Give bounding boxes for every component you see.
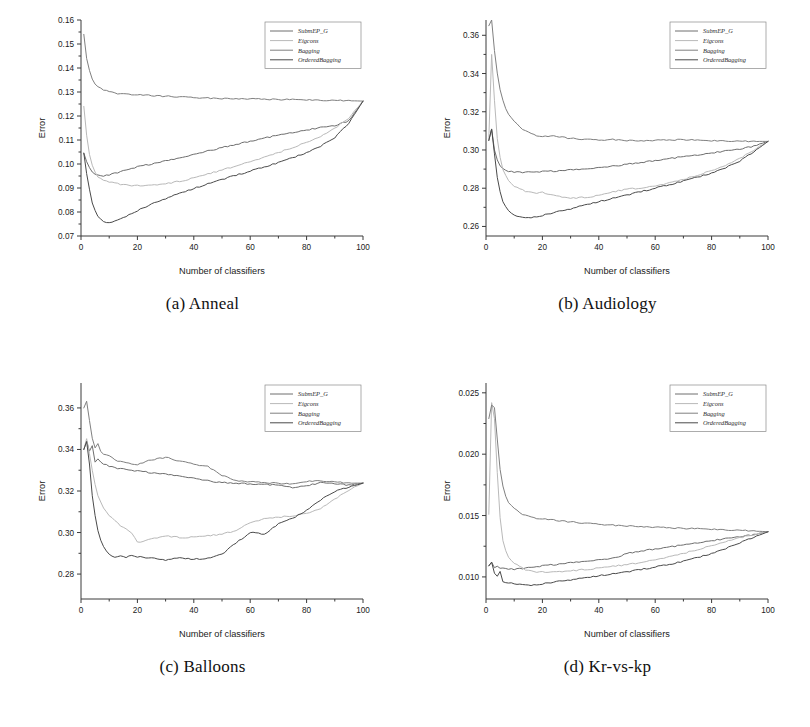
y-axis-title: Error (37, 481, 47, 501)
y-tick-label: 0.30 (58, 529, 74, 538)
plot-a: 0.070.080.090.100.110.120.130.140.150.16… (33, 10, 373, 282)
y-tick-label: 0.09 (58, 184, 74, 193)
series-line-submep_g (488, 129, 767, 173)
plot-b: 0.260.280.300.320.340.36020406080100Numb… (438, 10, 778, 282)
x-tick-label: 20 (132, 606, 142, 615)
x-tick-label: 0 (78, 606, 83, 615)
y-tick-label: 0.025 (458, 389, 479, 398)
y-tick-label: 0.28 (58, 570, 74, 579)
y-axis-title: Error (37, 118, 47, 138)
y-tick-label: 0.34 (463, 70, 479, 79)
y-tick-label: 0.08 (58, 208, 74, 217)
y-tick-label: 0.07 (58, 232, 74, 241)
x-tick-label: 60 (650, 243, 660, 252)
panel-c: 0.280.300.320.340.36020406080100Number o… (0, 363, 405, 727)
figure-grid: 0.070.080.090.100.110.120.130.140.150.16… (0, 0, 810, 727)
series-line-orderedbagging (83, 101, 362, 223)
legend-label-bagging: Bagging (703, 410, 725, 417)
plot-b-svg: 0.260.280.300.320.340.36020406080100Numb… (438, 10, 778, 282)
plot-d-svg: 0.0100.0150.0200.025020406080100Number o… (438, 373, 778, 645)
legend-label-eigcons: Eigcons (297, 400, 319, 407)
y-tick-label: 0.14 (58, 64, 74, 73)
x-tick-label: 80 (707, 243, 717, 252)
panel-caption-c: (c) Balloons (160, 657, 246, 677)
x-axis-title: Number of classifiers (179, 629, 265, 639)
y-tick-label: 0.10 (58, 160, 74, 169)
x-tick-label: 20 (537, 606, 547, 615)
y-tick-label: 0.32 (463, 108, 479, 117)
x-tick-label: 40 (189, 606, 199, 615)
x-tick-label: 60 (650, 606, 660, 615)
y-tick-label: 0.020 (458, 450, 479, 459)
x-tick-label: 40 (189, 243, 199, 252)
y-tick-label: 0.28 (463, 184, 479, 193)
x-tick-label: 40 (594, 243, 604, 252)
y-tick-label: 0.26 (463, 222, 479, 231)
panel-d: 0.0100.0150.0200.025020406080100Number o… (405, 363, 810, 727)
x-tick-label: 80 (302, 606, 312, 615)
y-tick-label: 0.32 (58, 487, 74, 496)
panel-a: 0.070.080.090.100.110.120.130.140.150.16… (0, 0, 405, 363)
x-tick-label: 80 (707, 606, 717, 615)
series-line-eigcons (488, 54, 767, 198)
plot-c-svg: 0.280.300.320.340.36020406080100Number o… (33, 373, 373, 645)
x-tick-label: 20 (132, 243, 142, 252)
legend-label-orderedbagging: OrderedBagging (703, 56, 747, 63)
x-axis-title: Number of classifiers (584, 629, 670, 639)
y-tick-label: 0.34 (58, 445, 74, 454)
series-line-orderedbagging (488, 129, 767, 218)
legend-label-orderedbagging: OrderedBagging (298, 419, 342, 426)
x-tick-label: 100 (761, 243, 775, 252)
series-line-orderedbagging (488, 532, 767, 586)
legend-label-submep_g: SubmEP_G (298, 27, 328, 34)
y-tick-label: 0.12 (58, 112, 74, 121)
x-tick-label: 20 (537, 243, 547, 252)
legend-label-eigcons: Eigcons (702, 400, 724, 407)
panel-caption-a: (a) Anneal (166, 294, 239, 314)
y-tick-label: 0.16 (58, 16, 74, 25)
x-tick-label: 100 (761, 606, 775, 615)
x-tick-label: 60 (245, 243, 255, 252)
series-line-orderedbagging (83, 442, 362, 561)
y-tick-label: 0.36 (58, 404, 74, 413)
y-axis-title: Error (442, 481, 452, 501)
x-tick-label: 0 (78, 243, 83, 252)
x-tick-label: 100 (356, 243, 370, 252)
series-line-eigcons (83, 101, 362, 186)
y-tick-label: 0.015 (458, 512, 479, 521)
x-tick-label: 40 (594, 606, 604, 615)
legend-label-orderedbagging: OrderedBagging (703, 419, 747, 426)
y-tick-label: 0.15 (58, 40, 74, 49)
plot-d: 0.0100.0150.0200.025020406080100Number o… (438, 373, 778, 645)
y-tick-label: 0.13 (58, 88, 74, 97)
y-tick-label: 0.010 (458, 573, 479, 582)
legend-label-bagging: Bagging (703, 47, 725, 54)
series-line-eigcons (83, 439, 362, 543)
legend-label-submep_g: SubmEP_G (298, 390, 328, 397)
series-line-submep_g (83, 101, 362, 176)
plot-a-svg: 0.070.080.090.100.110.120.130.140.150.16… (33, 10, 373, 282)
plot-c: 0.280.300.320.340.36020406080100Number o… (33, 373, 373, 645)
legend-label-bagging: Bagging (298, 410, 320, 417)
x-tick-label: 100 (356, 606, 370, 615)
legend-label-eigcons: Eigcons (702, 37, 724, 44)
panel-caption-b: (b) Audiology (558, 294, 656, 314)
x-tick-label: 0 (483, 606, 488, 615)
x-tick-label: 80 (302, 243, 312, 252)
legend-label-bagging: Bagging (298, 47, 320, 54)
x-tick-label: 60 (245, 606, 255, 615)
y-tick-label: 0.11 (58, 136, 74, 145)
y-tick-label: 0.30 (463, 146, 479, 155)
panel-caption-d: (d) Kr-vs-kp (564, 657, 652, 677)
y-tick-label: 0.36 (463, 31, 479, 40)
x-axis-title: Number of classifiers (584, 266, 670, 276)
x-tick-label: 0 (483, 243, 488, 252)
legend-label-submep_g: SubmEP_G (703, 27, 733, 34)
legend-label-submep_g: SubmEP_G (703, 390, 733, 397)
legend-label-eigcons: Eigcons (297, 37, 319, 44)
panel-b: 0.260.280.300.320.340.36020406080100Numb… (405, 0, 810, 363)
legend-label-orderedbagging: OrderedBagging (298, 56, 342, 63)
y-axis-title: Error (442, 118, 452, 138)
x-axis-title: Number of classifiers (179, 266, 265, 276)
